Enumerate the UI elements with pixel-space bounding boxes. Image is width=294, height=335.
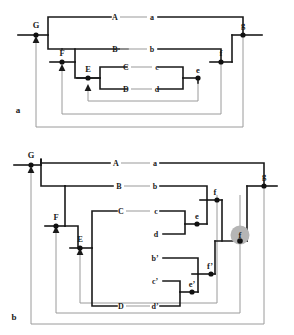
b-label-f-highlighted: f	[239, 230, 242, 240]
line-D-to-e	[158, 78, 183, 89]
b-wire-dprime-row	[160, 292, 180, 306]
panel-a-main-lines	[18, 17, 262, 89]
b-wire-C-row-right	[160, 211, 185, 224]
label-a-E: E	[85, 64, 91, 74]
panel-a-label-connectors	[120, 17, 152, 89]
b-wire-F-to-E	[65, 226, 78, 248]
b-label-C: C	[118, 207, 124, 216]
panel-a: G F E e f g A a B b C c D d a	[16, 13, 262, 127]
node-dot-g[interactable]	[240, 32, 245, 37]
b-label-fprime: f’	[207, 261, 213, 271]
label-a-A: A	[112, 13, 118, 22]
label-a-G: G	[33, 20, 40, 30]
b-wire-E-column	[92, 211, 117, 248]
line-G-riser	[48, 17, 111, 35]
panel-label-a: a	[16, 105, 21, 115]
panel-label-b: b	[11, 312, 16, 322]
b-wire-E-column-down	[92, 248, 117, 306]
panel-b-return-paths	[31, 170, 264, 324]
b-wire-A-row-right	[160, 163, 264, 186]
b-node-dot-eprime[interactable]	[189, 289, 194, 294]
b-label-F: F	[53, 212, 58, 222]
b-label-e: e	[195, 211, 199, 221]
b-label-D: D	[118, 302, 124, 311]
b-label-d: d	[154, 230, 159, 239]
panel-b-label-connectors	[121, 163, 150, 306]
panel-a-nodes	[33, 32, 245, 80]
b-label-G: G	[28, 150, 35, 160]
label-a-d: d	[155, 85, 160, 94]
b-wire-B-row-right	[160, 186, 207, 200]
label-a-b: b	[150, 45, 155, 54]
label-a-C: C	[123, 63, 129, 72]
b-label-f: f	[214, 187, 217, 197]
b-node-dot-F[interactable]	[53, 223, 58, 228]
label-a-D: D	[123, 85, 129, 94]
b-label-B: B	[116, 182, 122, 191]
b-wire-bprime-row	[163, 258, 198, 274]
b-label-a: a	[153, 159, 157, 168]
b-wire-cprime-row	[163, 281, 180, 292]
return-path-e-to-E	[88, 83, 198, 101]
label-a-c: c	[155, 63, 159, 72]
b-wire-G-riser-top	[41, 163, 110, 165]
node-dot-G[interactable]	[33, 32, 38, 37]
b-label-A: A	[113, 159, 119, 168]
network-diagrams-svg: G F E e f g A a B b C c D d a	[0, 0, 294, 335]
label-a-B: B	[112, 45, 118, 54]
panel-b: G F E e f e’ f’ f g A a B b C c d b’ c’ …	[11, 150, 277, 324]
b-return-path-g-to-G	[31, 170, 264, 324]
node-dot-f[interactable]	[218, 59, 223, 64]
b-wire-d-row-right	[163, 224, 185, 234]
b-label-E: E	[77, 234, 83, 244]
panel-b-nodes	[28, 162, 266, 294]
arrowhead-into-F	[59, 64, 66, 71]
b-node-dot-e[interactable]	[194, 221, 199, 226]
arrowhead-into-E	[85, 84, 92, 91]
line-A-to-g	[158, 17, 243, 35]
b-label-bprime: b’	[151, 254, 158, 263]
b-label-eprime: e’	[189, 279, 196, 289]
node-dot-F[interactable]	[59, 59, 64, 64]
b-label-c: c	[154, 207, 158, 216]
label-a-F: F	[59, 48, 64, 58]
label-a-f: f	[220, 48, 223, 58]
b-label-b: b	[153, 182, 158, 191]
b-node-dot-E[interactable]	[77, 245, 82, 250]
b-node-dot-f[interactable]	[214, 197, 219, 202]
b-node-dot-G[interactable]	[28, 162, 33, 167]
b-label-g: g	[262, 171, 267, 181]
label-a-a: a	[150, 13, 154, 22]
line-C-to-e	[158, 67, 183, 78]
node-dot-E[interactable]	[85, 75, 90, 80]
b-wire-G-down	[41, 165, 65, 186]
node-dot-e[interactable]	[195, 75, 200, 80]
b-label-cprime: c’	[152, 277, 159, 286]
figure-container: G F E e f g A a B b C c D d a	[0, 0, 294, 335]
b-node-dot-fprime[interactable]	[208, 271, 213, 276]
b-return-path-f-to-F	[56, 195, 240, 313]
b-label-dprime: d’	[151, 302, 158, 311]
label-a-e: e	[196, 65, 200, 75]
line-B-to-f	[158, 49, 221, 62]
b-node-dot-g[interactable]	[261, 183, 266, 188]
label-a-g: g	[241, 20, 246, 30]
